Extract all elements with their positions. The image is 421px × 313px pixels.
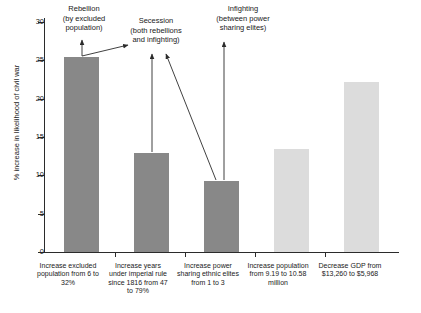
y-tick-label-30: 30 [10, 18, 44, 26]
category-label-1-line-3: to 79% [96, 287, 180, 295]
bar-2[interactable] [204, 181, 239, 252]
category-label-4-line-0: Decrease GDP from [306, 262, 394, 270]
annotation-infighting-line-0: Infighting [196, 4, 290, 14]
y-tick-label-10: 10 [10, 171, 44, 179]
x-axis-line [44, 252, 399, 253]
annotation-secession-line-0: Secession [110, 16, 202, 26]
annotation-secession-line-2: and infighting) [110, 35, 202, 45]
bar-4[interactable] [344, 82, 379, 252]
category-label-4: Decrease GDP from $13,260 to $5,968 [306, 262, 394, 279]
x-tick-0 [115, 252, 116, 257]
x-tick-1 [185, 252, 186, 257]
annotation-secession-line-1: (both rebellions [110, 26, 202, 36]
category-label-4-line-1: $13,260 to $5,968 [306, 270, 394, 278]
annotation-infighting-line-1: (between power [196, 14, 290, 24]
y-tick-label-5: 5 [10, 210, 44, 218]
bar-1[interactable] [134, 153, 169, 252]
bar-chart: % increase in likelihood of civil war 0 … [0, 0, 421, 313]
y-tick-label-15: 15 [10, 133, 44, 141]
annotation-infighting-line-2: sharing elites) [196, 23, 290, 33]
annotation-rebellion-line-0: Rebellion [40, 4, 128, 14]
annotation-infighting: Infighting (between power sharing elites… [196, 4, 290, 33]
bar-0[interactable] [64, 57, 99, 252]
y-tick-label-20: 20 [10, 95, 44, 103]
x-tick-2 [255, 252, 256, 257]
x-tick-3 [325, 252, 326, 257]
category-label-3-line-2: million [236, 279, 320, 287]
annotation-secession: Secession (both rebellions and infightin… [110, 16, 202, 45]
y-tick-label-25: 25 [10, 56, 44, 64]
bar-3[interactable] [274, 149, 309, 252]
bars-container [44, 18, 399, 252]
y-tick-label-0: 0 [10, 248, 44, 256]
